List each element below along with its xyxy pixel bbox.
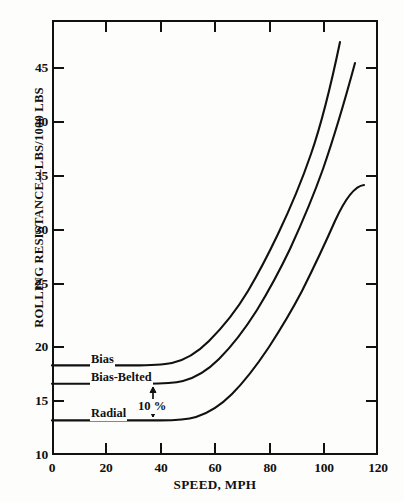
y-tick-label-20: 20 — [20, 339, 48, 355]
x-tick-label-120: 120 — [368, 460, 388, 475]
series-label-bias: Bias — [90, 352, 115, 367]
y-tick-label-45: 45 — [20, 60, 48, 76]
chart-page: 45 40 35 30 25 20 15 10 0 20 40 60 80 10… — [0, 0, 404, 502]
x-tick-label-40: 40 — [154, 460, 167, 475]
x-tick-label-20-wrap: 20 — [86, 458, 126, 476]
series-label-bias-belted: Bias-Belted — [90, 370, 153, 385]
series-label-radial: Radial — [90, 406, 127, 421]
y-tick-label-15: 15 — [20, 393, 48, 409]
y-tick-label-15-wrap: 15 — [0, 393, 48, 409]
x-tick-label-0: 0 — [49, 460, 56, 475]
y-tick-label-45-wrap: 45 — [0, 60, 48, 76]
x-tick-label-0-wrap: 0 — [32, 458, 72, 476]
x-tick-label-40-wrap: 40 — [141, 458, 181, 476]
x-tick-label-80: 80 — [263, 460, 276, 475]
y-tick-label-20-wrap: 20 — [0, 339, 48, 355]
y-axis-title: ROLLING RESISTANCE—LBS/1000 LBS — [32, 83, 47, 333]
x-tick-label-60: 60 — [208, 460, 221, 475]
x-tick-label-60-wrap: 60 — [195, 458, 235, 476]
x-tick-label-100: 100 — [314, 460, 334, 475]
x-axis-title: SPEED, MPH — [52, 477, 378, 493]
x-tick-label-80-wrap: 80 — [250, 458, 290, 476]
x-tick-label-20: 20 — [99, 460, 112, 475]
plot-frame — [52, 20, 378, 455]
percent-annotation-label: 10 % — [137, 399, 167, 414]
x-tick-label-120-wrap: 120 — [358, 458, 398, 476]
x-tick-label-100-wrap: 100 — [304, 458, 344, 476]
